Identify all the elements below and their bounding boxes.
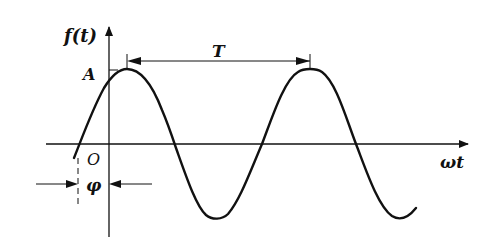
y-axis-label: f(t): [62, 25, 97, 46]
diagram-svg: f(t) A T O φ ωt: [0, 0, 496, 246]
phase-arrowhead-left: [66, 180, 78, 188]
phase-arrowhead-right: [109, 180, 121, 188]
period-label: T: [212, 41, 226, 61]
sine-wave-diagram: f(t) A T O φ ωt: [0, 0, 496, 246]
origin-label: O: [87, 150, 100, 169]
amplitude-label: A: [81, 65, 95, 84]
period-arrowhead-right: [296, 57, 310, 65]
phase-label: φ: [86, 175, 102, 195]
x-axis-label: ωt: [440, 152, 464, 172]
period-arrowhead-left: [127, 57, 141, 65]
